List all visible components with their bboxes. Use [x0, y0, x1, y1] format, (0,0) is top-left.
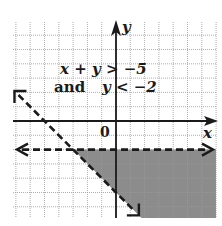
inequality-label: x + y > −5 and y < −2: [54, 55, 171, 96]
inequality-line-2-prefix: and: [54, 78, 86, 96]
inequality-line-2: y < −2: [101, 78, 157, 96]
shaded-region-layer: [73, 150, 216, 218]
shaded-region: [73, 150, 216, 218]
y-axis-label: y: [121, 18, 132, 36]
inequality-graph: y x 0 x + y > −5 and y < −2: [0, 0, 222, 226]
origin-label: 0: [100, 124, 110, 140]
inequality-line-1: x + y > −5: [59, 60, 147, 78]
x-axis-label: x: [202, 124, 213, 142]
